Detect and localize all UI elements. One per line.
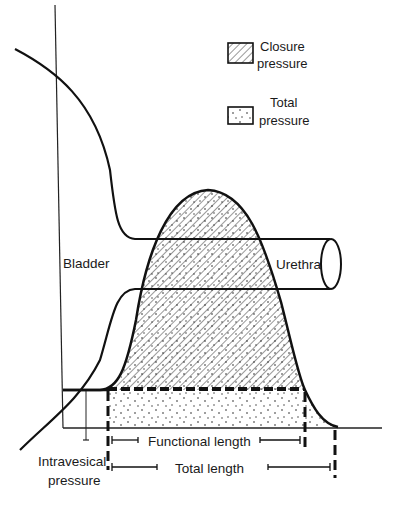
legend-closure-swatch	[228, 43, 253, 63]
legend-total-line2: pressure	[259, 113, 310, 128]
legend-total-line1: Total	[270, 95, 298, 110]
legend-closure-line2: pressure	[257, 56, 308, 71]
urethra-label: Urethra	[276, 257, 322, 272]
functional-length-label: Functional length	[148, 434, 251, 449]
intravesical-label-line2: pressure	[48, 473, 101, 488]
legend-total-swatch	[228, 107, 253, 124]
urethra-opening	[321, 239, 341, 289]
bladder-label: Bladder	[63, 256, 110, 271]
legend-closure-line1: Closure	[260, 39, 305, 54]
legend: Closure pressure Total pressure	[228, 39, 310, 128]
y-axis	[55, 5, 63, 428]
total-length-label: Total length	[175, 461, 244, 476]
intravesical-label-line1: Intravesical	[38, 454, 106, 469]
urethral-pressure-diagram: Functional length Total length Intravesi…	[0, 0, 406, 510]
